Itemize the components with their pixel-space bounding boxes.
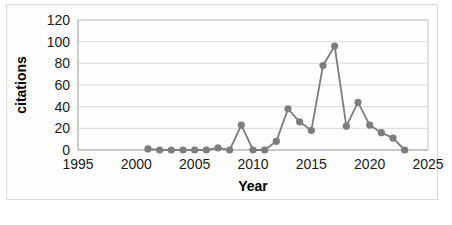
y-tick-label-20: 20 [54,120,70,136]
data-point-2016 [319,62,326,69]
data-point-2019 [354,99,361,106]
data-point-2018 [343,123,350,130]
data-point-2006 [203,146,210,153]
x-tick-label-2020: 2020 [354,156,385,172]
series-markers [144,42,408,153]
data-point-2013 [284,105,291,112]
x-tick-label-2015: 2015 [296,156,327,172]
gridlines [78,20,428,150]
x-tick-label-2005: 2005 [179,156,210,172]
data-point-2002 [156,146,163,153]
data-point-2008 [226,146,233,153]
data-point-2017 [331,42,338,49]
y-tick-labels: 120100806040200 [47,12,71,158]
data-point-2012 [273,138,280,145]
data-point-2011 [261,146,268,153]
y-tick-label-40: 40 [54,99,70,115]
x-tick-labels: 1995200020052010201520202025 [62,156,443,172]
x-axis-title: Year [238,178,268,194]
data-point-2023 [401,146,408,153]
data-point-2014 [296,118,303,125]
y-tick-label-100: 100 [47,34,71,50]
data-point-2005 [191,146,198,153]
chart-figure: 1201008060402001995200020052010201520202… [0,0,452,225]
data-point-2022 [389,134,396,141]
data-point-2007 [214,144,221,151]
y-tick-label-60: 60 [54,77,70,93]
citations-line-chart: 1201008060402001995200020052010201520202… [0,0,452,225]
x-tick-label-1995: 1995 [62,156,93,172]
x-tick-label-2010: 2010 [237,156,268,172]
x-tick-label-2025: 2025 [412,156,443,172]
data-point-2004 [179,146,186,153]
y-tick-label-80: 80 [54,55,70,71]
data-point-2001 [144,145,151,152]
x-tick-label-2000: 2000 [121,156,152,172]
y-tick-label-120: 120 [47,12,71,28]
data-point-2009 [238,121,245,128]
data-point-2003 [168,146,175,153]
series-line-citations [148,46,405,150]
data-point-2020 [366,121,373,128]
data-point-2015 [308,127,315,134]
data-point-2010 [249,146,256,153]
y-axis-title: citations [13,56,29,114]
data-point-2021 [378,129,385,136]
